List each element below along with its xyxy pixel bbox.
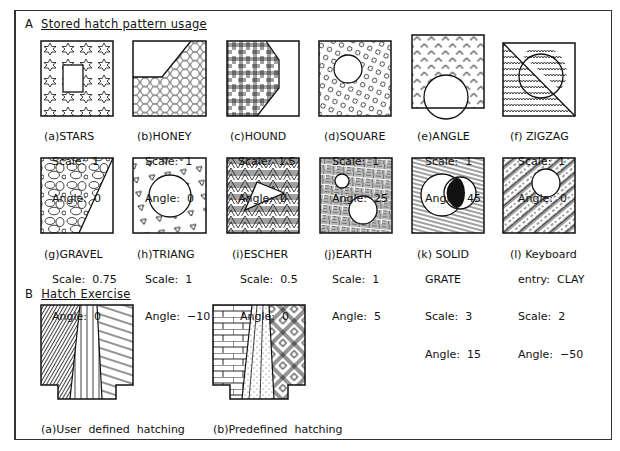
pattern-name: HONEY [153,130,192,143]
pattern-angle: Angle: 5 [317,311,381,324]
pattern-name: SOLID [435,248,468,261]
caption-prefix: (c) [230,130,245,143]
section-b-title: B Hatch Exercise [25,287,131,301]
pattern-name: SQUARE [340,130,386,143]
caption-prefix: (d) [324,130,340,143]
pattern-scale: Scale: 3 [410,311,481,324]
pattern-scale: Scale: 1 [37,156,101,169]
caption-predefined: (b)Predefined hatching [213,424,343,437]
caption-solid-grate: (k) SOLID GRATE Scale: 3 Angle: 15 [410,236,481,374]
caption-earth: (j)EARTH Scale: 1 Angle: 5 [317,236,381,336]
caption-prefix: (j) [324,248,336,261]
caption-prefix: (i) [232,248,244,261]
pattern-extra: entry: CLAY [503,274,584,287]
pattern-scale: Scale: 1 [130,156,194,169]
hatch-zigzag [503,43,575,116]
pattern-scale: Scale: 1 [130,274,210,287]
pattern-scale: Scale: 0.75 [37,274,117,287]
pattern-name: ESCHER [244,248,288,261]
caption-angle: (e)ANGLE Scale: 1 Angle: 45 [410,118,481,218]
caption-prefix: (e) [417,130,432,143]
pattern-name: TRIANG [153,248,195,261]
caption-triang: (h)TRIANG Scale: 1 Angle: −10 [130,236,210,336]
pattern-angle: Angle: 0 [225,311,298,324]
caption-prefix: (l) [510,248,522,261]
pattern-scale: Scale: 2 [503,311,584,324]
caption-clay: (l) Keyboard entry: CLAY Scale: 2 Angle:… [503,236,584,374]
hatch-stars [41,41,113,116]
caption-prefix: (k) [417,248,432,261]
pattern-name: STARS [59,130,94,143]
section-b-letter: B [25,287,33,301]
pattern-angle: Angle: 0 [37,311,117,324]
pattern-name: Keyboard [525,248,577,261]
pattern-angle: Angle: −50 [503,349,584,362]
caption-prefix: (b) [137,130,153,143]
pattern-extra: GRATE [410,274,481,287]
caption-prefix: (g) [44,248,60,261]
pattern-scale: Scale: 0.5 [225,274,298,287]
pattern-name: EARTH [336,248,372,261]
pattern-angle: Angle: 0 [223,193,296,206]
caption-zigzag: (f) ZIGZAG Scale: 1 Angle: 0 [503,118,569,218]
pattern-scale: Scale: 1 [410,156,481,169]
hatch-honey [133,41,206,116]
caption-prefix: (f) [510,130,522,143]
caption-prefix: (a) [44,130,59,143]
pattern-angle: Angle: 45 [410,193,481,206]
pattern-scale: Scale: 1 [317,156,388,169]
caption-square: (d)SQUARE Scale: 1 Angle: 25 [317,118,388,218]
caption-gravel: (g)GRAVEL Scale: 0.75 Angle: 0 [37,236,117,336]
caption-prefix: (h) [137,248,153,261]
pattern-angle: Angle: 0 [130,193,194,206]
caption-hound: (c)HOUND Scale: 1.5 Angle: 0 [223,118,296,218]
hatch-square [319,41,391,116]
hatch-figures [0,0,620,451]
caption-escher: (i)ESCHER Scale: 0.5 Angle: 0 [225,236,298,336]
pattern-angle: Angle: 25 [317,193,388,206]
caption-honey: (b)HONEY Scale: 1 Angle: 0 [130,118,194,218]
pattern-angle: Angle: 0 [503,193,569,206]
pattern-name: ANGLE [432,130,469,143]
pattern-name: GRAVEL [60,248,103,261]
caption-user-defined: (a)User defined hatching [41,424,185,437]
pattern-angle: Angle: 0 [37,193,101,206]
pattern-scale: Scale: 1 [503,156,569,169]
pattern-scale: Scale: 1 [317,274,381,287]
hatch-angle [412,35,484,119]
pattern-name: HOUND [245,130,287,143]
pattern-scale: Scale: 1.5 [223,156,296,169]
caption-stars: (a)STARS Scale: 1 Angle: 0 [37,118,101,218]
hatch-hound [227,41,299,116]
section-b-heading: Hatch Exercise [41,287,131,301]
pattern-name: ZIGZAG [526,130,569,143]
pattern-angle: Angle: 15 [410,349,481,362]
pattern-angle: Angle: −10 [130,311,210,324]
